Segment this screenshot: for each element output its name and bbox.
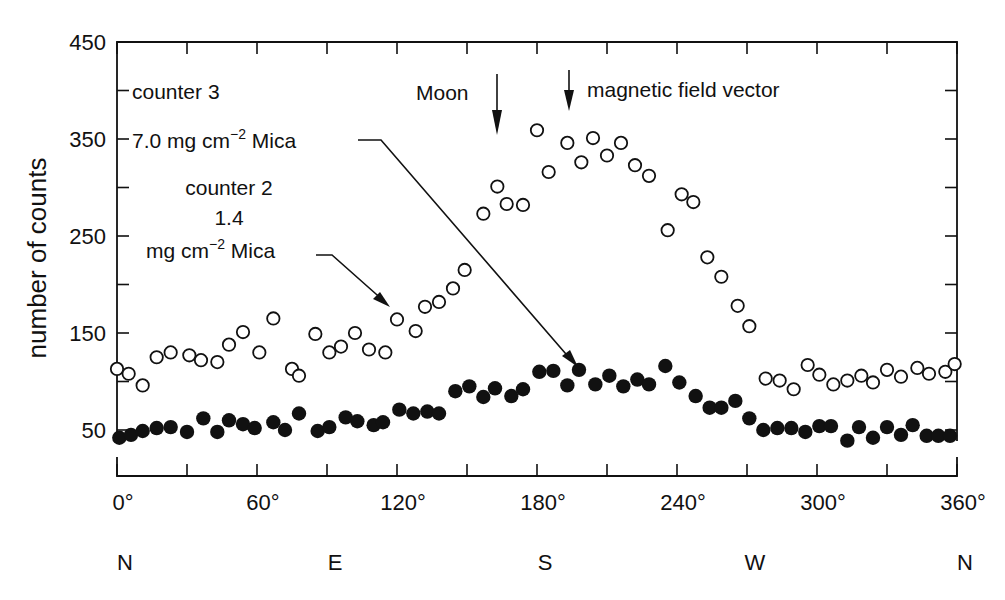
scatter-chart: 0°60°120°180°240°300°360° 50150250350450… (0, 0, 1005, 600)
data-point-counter-3 (911, 362, 923, 374)
data-point-counter-3 (801, 359, 813, 371)
x-tick-label: 180° (520, 490, 566, 515)
data-point-counter-2 (532, 365, 546, 379)
data-point-counter-3 (923, 368, 935, 380)
data-point-counter-3 (391, 313, 403, 325)
data-point-counter-3 (827, 378, 839, 390)
data-point-counter-3 (895, 370, 907, 382)
data-point-counter-2 (392, 402, 406, 416)
data-point-counter-2 (714, 400, 728, 414)
data-point-counter-2 (756, 423, 770, 437)
y-tick-label: 50 (82, 418, 106, 443)
y-tick-labels: 50150250350450 (69, 30, 106, 443)
x-tick-label: 0° (112, 490, 133, 515)
data-point-counter-2 (488, 381, 502, 395)
data-point-counter-3 (253, 346, 265, 358)
data-point-counter-3 (150, 351, 162, 363)
data-point-counter-3 (601, 149, 613, 161)
compass-label: N (117, 550, 133, 575)
data-point-counter-3 (587, 132, 599, 144)
data-point-counter-2 (292, 406, 306, 420)
data-point-counter-2 (476, 390, 490, 404)
data-point-counter-2 (742, 411, 756, 425)
data-point-counter-2 (572, 363, 586, 377)
data-point-counter-3 (517, 199, 529, 211)
data-point-counter-2 (824, 419, 838, 433)
data-point-counter-3 (813, 369, 825, 381)
data-point-counter-3 (561, 137, 573, 149)
data-point-counter-2 (894, 428, 908, 442)
data-point-counter-2 (149, 421, 163, 435)
label-counter-2-value: 1.4 (214, 206, 244, 229)
y-tick-label: 250 (69, 224, 106, 249)
data-point-counter-3 (687, 196, 699, 208)
data-point-counter-3 (881, 364, 893, 376)
data-point-counter-3 (715, 271, 727, 283)
data-point-counter-3 (500, 198, 512, 210)
data-point-counter-2 (866, 431, 880, 445)
label-magnetic-field-vector: magnetic field vector (587, 78, 780, 101)
data-point-counter-2 (196, 411, 210, 425)
data-point-counter-2 (852, 420, 866, 434)
data-point-counter-2 (210, 425, 224, 439)
data-point-counter-3 (575, 156, 587, 168)
data-point-counter-2 (588, 377, 602, 391)
data-point-counter-3 (323, 346, 335, 358)
data-point-counter-3 (841, 374, 853, 386)
x-tick-label: 60° (246, 490, 279, 515)
data-point-counter-3 (419, 301, 431, 313)
magnetic-arrow-head (564, 90, 574, 111)
data-point-counter-2 (163, 420, 177, 434)
data-point-counter-2 (880, 420, 894, 434)
leader-line-counter-2 (316, 255, 385, 302)
data-point-counter-3 (531, 124, 543, 136)
data-point-counter-2 (222, 413, 236, 427)
data-point-counter-2 (798, 425, 812, 439)
data-point-counter-2 (247, 421, 261, 435)
data-point-counter-3 (477, 207, 489, 219)
data-point-counter-3 (542, 166, 554, 178)
label-counter-2-mica: mg cm−2 Mica (146, 236, 275, 262)
data-point-counter-3 (743, 320, 755, 332)
data-point-counter-3 (629, 159, 641, 171)
data-point-counter-3 (111, 363, 123, 375)
data-point-counter-3 (458, 264, 470, 276)
data-point-counter-3 (661, 224, 673, 236)
data-point-counter-2 (905, 418, 919, 432)
series-counter-2-filled (112, 359, 957, 448)
data-point-counter-3 (211, 356, 223, 368)
x-tick-label: 300° (800, 490, 846, 515)
data-point-counter-2 (658, 359, 672, 373)
x-tick-label: 120° (380, 490, 426, 515)
data-point-counter-2 (322, 420, 336, 434)
axis-break-right (955, 441, 959, 457)
data-point-counter-2 (516, 382, 530, 396)
data-point-counter-2 (546, 364, 560, 378)
data-point-counter-2 (770, 421, 784, 435)
compass-label: S (538, 550, 553, 575)
label-moon: Moon (416, 81, 469, 104)
data-point-counter-3 (335, 340, 347, 352)
data-point-counter-3 (122, 368, 134, 380)
data-point-counter-3 (787, 383, 799, 395)
data-point-counter-3 (491, 180, 503, 192)
data-point-counter-3 (164, 346, 176, 358)
data-point-counter-3 (379, 346, 391, 358)
data-point-counter-2 (672, 375, 686, 389)
data-point-counter-2 (350, 414, 364, 428)
data-point-counter-3 (447, 282, 459, 294)
data-point-counter-3 (237, 326, 249, 338)
data-point-counter-2 (688, 389, 702, 403)
data-point-counter-3 (136, 379, 148, 391)
y-tick-label: 150 (69, 321, 106, 346)
x-tick-label: 240° (660, 490, 706, 515)
data-point-counter-3 (223, 338, 235, 350)
data-point-counter-2 (376, 415, 390, 429)
data-point-counter-2 (462, 379, 476, 393)
data-point-counter-3 (293, 369, 305, 381)
data-point-counter-2 (278, 423, 292, 437)
data-point-counter-3 (855, 369, 867, 381)
x-tick-labels: 0°60°120°180°240°300°360° (112, 490, 985, 515)
moon-arrow-head (492, 110, 502, 135)
data-point-counter-2 (135, 424, 149, 438)
